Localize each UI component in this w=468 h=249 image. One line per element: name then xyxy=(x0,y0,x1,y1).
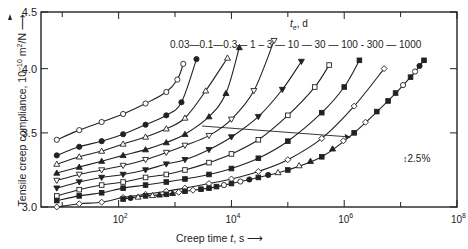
data-point-square xyxy=(164,192,169,197)
x-tick-label-exp: 4 xyxy=(236,212,240,219)
data-point-square xyxy=(229,152,234,157)
data-point-square xyxy=(143,175,148,180)
data-point-circle xyxy=(266,172,271,177)
scale-note: ↕2.5% xyxy=(403,153,430,164)
data-point-diamond xyxy=(76,201,82,207)
data-point-circle xyxy=(54,153,59,158)
data-point-square xyxy=(408,75,413,80)
data-point-square xyxy=(214,184,219,189)
data-point-circle xyxy=(121,111,126,116)
scale-note-text: 2.5% xyxy=(408,153,431,164)
curve-3 xyxy=(57,41,274,181)
data-point-circle xyxy=(99,119,104,124)
data-point-square xyxy=(422,58,427,63)
data-point-square xyxy=(286,168,291,173)
y-axis-label-unit: /N xyxy=(16,33,28,44)
data-point-square xyxy=(312,85,317,90)
data-point-square xyxy=(286,113,291,118)
x-tick-label-exp: 6 xyxy=(349,212,353,219)
data-point-square xyxy=(319,110,324,115)
data-point-circle xyxy=(175,77,180,82)
data-point-square xyxy=(393,91,398,96)
data-point-circle xyxy=(99,139,104,144)
data-point-square xyxy=(183,189,188,194)
data-point-square xyxy=(164,172,169,177)
data-point-diamond xyxy=(190,187,196,193)
data-point-square xyxy=(143,183,148,188)
x-tick-label: 10 xyxy=(225,214,237,225)
data-point-circle xyxy=(164,113,169,118)
data-point-diamond xyxy=(99,199,105,205)
curve-0.1 xyxy=(57,59,197,155)
y-axis-label-exp: −10 xyxy=(16,59,23,71)
data-point-square xyxy=(319,155,324,160)
data-point-square xyxy=(342,85,347,90)
data-point-triangle xyxy=(182,131,188,136)
data-point-circle xyxy=(417,63,422,68)
data-point-circle xyxy=(143,101,148,106)
data-point-square xyxy=(121,186,126,191)
data-point-square xyxy=(327,63,332,68)
data-point-circle xyxy=(54,137,59,142)
curve-1 xyxy=(57,47,240,172)
data-point-square xyxy=(143,194,148,199)
data-point-square xyxy=(121,180,126,185)
chart-canvas: 1021041061084.54.03.53.0 xyxy=(0,0,468,249)
y-axis-arrow-icon: ⟶ xyxy=(16,14,28,30)
data-point-square xyxy=(352,131,357,136)
shift-arrow-line xyxy=(202,126,351,137)
data-point-square xyxy=(99,183,104,188)
data-point-circle xyxy=(400,82,405,87)
data-point-square xyxy=(207,186,212,191)
data-point-square xyxy=(121,197,126,202)
y-axis-label-tail: m xyxy=(16,47,28,59)
data-point-inv-triangle xyxy=(54,186,60,191)
y-axis-arrowhead-icon xyxy=(8,14,12,20)
data-point-square xyxy=(99,190,104,195)
data-point-square xyxy=(374,109,379,114)
y-axis-label: Tensile creep compliance, 10−10 m2/N ⟶ xyxy=(16,10,29,210)
data-point-square xyxy=(256,175,261,180)
data-point-diamond xyxy=(255,168,261,174)
legend-ageing-times: 0.03—0.1—0.3— 1 – 3 — 10 — 30 — 100 - 30… xyxy=(170,39,421,50)
data-point-circle xyxy=(221,182,226,187)
x-tick-label: 10 xyxy=(113,214,125,225)
data-point-circle xyxy=(164,89,169,94)
data-point-inv-triangle xyxy=(251,89,257,94)
data-point-square xyxy=(199,187,204,192)
data-point-square xyxy=(183,177,188,182)
x-axis-label: Creep time t, s ⟶ xyxy=(176,232,263,244)
y-axis-label-text: Tensile creep compliance, 10 xyxy=(16,71,28,206)
x-tick-label: 10 xyxy=(451,214,463,225)
data-point-circle xyxy=(143,122,148,127)
data-point-square xyxy=(357,58,362,63)
x-tick-label-exp: 2 xyxy=(124,212,128,219)
data-point-square xyxy=(183,168,188,173)
data-point-circle xyxy=(238,179,243,184)
data-point-square xyxy=(229,181,234,186)
data-point-square xyxy=(229,166,234,171)
data-point-triangle xyxy=(223,90,229,95)
curve-0.3 xyxy=(57,58,228,164)
x-tick-label: 10 xyxy=(338,214,350,225)
data-point-square xyxy=(207,160,212,165)
data-point-square xyxy=(77,194,82,199)
data-point-circle xyxy=(77,144,82,149)
data-point-circle xyxy=(247,177,252,182)
data-point-circle xyxy=(128,195,133,200)
curve-30 xyxy=(57,65,329,196)
data-point-diamond xyxy=(285,157,291,163)
x-tick-label-exp: 8 xyxy=(462,212,466,219)
data-point-circle xyxy=(121,132,126,137)
data-point-circle xyxy=(77,128,82,133)
data-point-triangle xyxy=(224,55,230,60)
data-point-inv-triangle xyxy=(54,178,60,183)
data-point-square xyxy=(286,139,291,144)
data-point-circle xyxy=(194,57,199,62)
data-point-square xyxy=(164,180,169,185)
data-point-square xyxy=(54,198,59,203)
data-point-circle xyxy=(412,69,417,74)
data-point-square xyxy=(256,156,261,161)
data-point-inv-triangle xyxy=(206,133,212,138)
data-point-square xyxy=(386,99,391,104)
